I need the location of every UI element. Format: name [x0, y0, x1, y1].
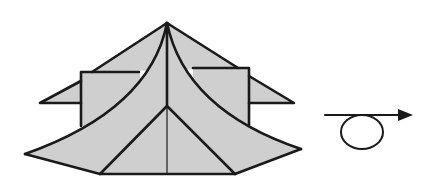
folded-model: [25, 23, 301, 174]
turn-over-arrow-icon: [325, 109, 413, 149]
origami-diagram: [0, 0, 436, 184]
